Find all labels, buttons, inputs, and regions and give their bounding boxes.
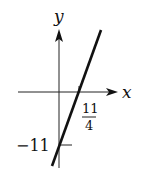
x-axis-label: x [122,82,132,102]
graph: y x 11 4 −11 [0,0,145,181]
y-intercept-label: −11 [16,136,50,155]
x-intercept-numerator: 11 [82,101,99,116]
x-intercept-denominator: 4 [85,118,93,133]
y-axis-label: y [53,6,64,26]
